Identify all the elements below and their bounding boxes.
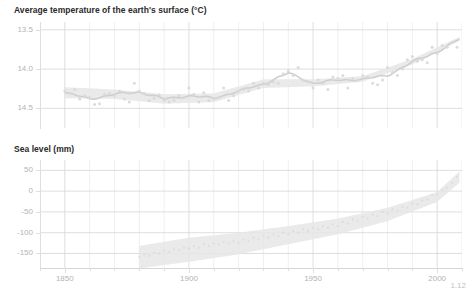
temperature-y-tick-label: 13.5 bbox=[0, 25, 33, 34]
x-tick-label: 1850 bbox=[45, 274, 85, 283]
x-tick-label: 1950 bbox=[293, 274, 333, 283]
x-tick-mark bbox=[189, 268, 190, 273]
x-tick-mark bbox=[164, 268, 165, 271]
sealevel-panel-title: Sea level (mm) bbox=[14, 144, 74, 154]
x-tick-mark bbox=[214, 268, 215, 271]
x-tick-mark bbox=[338, 268, 339, 271]
sealevel-y-tick-label: -150 bbox=[0, 248, 33, 257]
x-tick-mark bbox=[239, 268, 240, 271]
temperature-y-tick-mark bbox=[36, 69, 40, 70]
temperature-y-tick-label: 14.5 bbox=[0, 103, 33, 112]
sealevel-y-tick-mark bbox=[36, 170, 40, 171]
x-tick-mark bbox=[288, 268, 289, 271]
temperature-chart-svg bbox=[40, 22, 462, 128]
temperature-plot-area bbox=[40, 22, 462, 128]
x-tick-mark bbox=[388, 268, 389, 271]
x-tick-mark bbox=[139, 268, 140, 271]
x-tick-mark bbox=[412, 268, 413, 271]
temperature-y-tick-label: 14.0 bbox=[0, 64, 33, 73]
shared-x-axis-line bbox=[40, 268, 463, 269]
x-tick-mark bbox=[114, 268, 115, 271]
sealevel-y-tick-mark bbox=[36, 191, 40, 192]
x-tick-mark bbox=[313, 268, 314, 273]
sealevel-y-tick-label: 50 bbox=[0, 165, 33, 174]
temperature-y-tick-mark bbox=[36, 108, 40, 109]
sealevel-y-tick-mark bbox=[36, 212, 40, 213]
figure-footnote: 1.12 bbox=[450, 281, 466, 290]
sealevel-y-axis-line bbox=[40, 160, 41, 269]
x-tick-mark bbox=[65, 268, 66, 273]
sealevel-y-tick-label: -50 bbox=[0, 207, 33, 216]
sealevel-chart-svg bbox=[40, 160, 462, 268]
sealevel-y-tick-label: 0 bbox=[0, 186, 33, 195]
climate-figure: · Average temperature of the earth's sur… bbox=[0, 0, 475, 293]
x-tick-mark bbox=[437, 268, 438, 273]
sealevel-plot-area bbox=[40, 160, 462, 268]
temperature-panel-title: Average temperature of the earth's surfa… bbox=[14, 5, 207, 15]
corner-mark: · bbox=[2, 2, 6, 9]
x-tick-mark bbox=[40, 268, 41, 271]
sealevel-y-tick-mark bbox=[36, 253, 40, 254]
temperature-y-tick-mark bbox=[36, 30, 40, 31]
sealevel-y-tick-label: -100 bbox=[0, 228, 33, 237]
sealevel-y-tick-mark bbox=[36, 233, 40, 234]
x-tick-mark bbox=[462, 268, 463, 271]
x-tick-mark bbox=[90, 268, 91, 271]
temperature-y-axis-line bbox=[40, 22, 41, 129]
x-tick-mark bbox=[263, 268, 264, 271]
x-tick-label: 1900 bbox=[169, 274, 209, 283]
x-tick-mark bbox=[363, 268, 364, 271]
